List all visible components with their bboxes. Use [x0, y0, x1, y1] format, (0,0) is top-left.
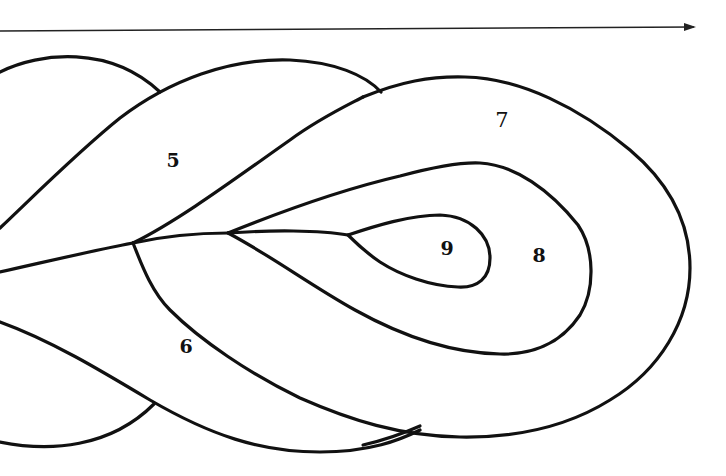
region-label-6: 6	[179, 337, 192, 356]
region-label-9: 9	[440, 239, 453, 258]
region-label-7: 7	[495, 110, 508, 131]
direction-arrow	[0, 27, 694, 31]
inner-loop-region-9	[348, 215, 490, 287]
diagram-svg	[0, 0, 726, 476]
left-bottom-arch	[0, 404, 154, 447]
junction-b-to-c	[228, 231, 348, 235]
region-6-bottom-boundary	[0, 322, 420, 452]
region-label-5: 5	[166, 151, 179, 170]
region-5-top-boundary	[0, 60, 381, 228]
left-top-arch	[0, 57, 160, 92]
region-label-8: 8	[532, 246, 545, 265]
left-strand-into-junction	[0, 243, 133, 272]
diagram-canvas: 5 6 7 8 9	[0, 0, 726, 476]
outer-loop-region-7	[133, 77, 690, 437]
